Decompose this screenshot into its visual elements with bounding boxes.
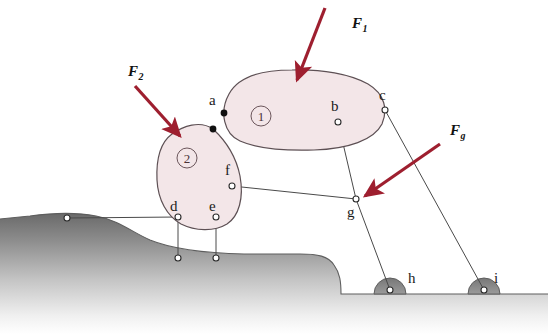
force-label-F1: F1 bbox=[351, 15, 368, 34]
node-marker-f bbox=[229, 183, 235, 189]
force-subscript-F1: 1 bbox=[363, 23, 368, 34]
node-marker-ground-d bbox=[175, 255, 181, 261]
node-marker-a2 bbox=[210, 126, 217, 133]
node-marker-i bbox=[481, 287, 487, 293]
ground-terrain bbox=[0, 213, 548, 334]
node-label-d: d bbox=[170, 198, 178, 214]
diagram-canvas: 12 abcdefghi F1F2Fg bbox=[0, 0, 548, 334]
body-number-2: 2 bbox=[184, 151, 191, 166]
node-label-i: i bbox=[494, 270, 498, 286]
node-marker-d bbox=[175, 214, 181, 220]
node-marker-ground-e bbox=[213, 255, 219, 261]
node-label-a: a bbox=[209, 92, 216, 108]
force-subscript-F2: 2 bbox=[138, 71, 144, 82]
node-marker-b bbox=[335, 119, 341, 125]
node-marker-g bbox=[353, 196, 359, 202]
force-arrow-Fg bbox=[365, 144, 440, 196]
force-label-Fg: Fg bbox=[449, 122, 466, 141]
terrain-group bbox=[0, 213, 548, 334]
node-label-e: e bbox=[209, 198, 216, 214]
node-label-c: c bbox=[379, 87, 386, 103]
link-g-h bbox=[356, 199, 390, 290]
node-marker-anchor-left bbox=[64, 215, 70, 221]
free-body-diagram: 12 abcdefghi F1F2Fg bbox=[0, 0, 548, 334]
link-f-g bbox=[232, 186, 356, 199]
force-arrow-F1 bbox=[297, 8, 325, 80]
node-marker-a bbox=[221, 110, 228, 117]
node-marker-h bbox=[387, 287, 393, 293]
node-label-b: b bbox=[331, 98, 339, 114]
link-c-i bbox=[385, 110, 484, 290]
force-label-F2: F2 bbox=[127, 63, 144, 82]
node-label-h: h bbox=[408, 270, 416, 286]
node-label-g: g bbox=[347, 204, 355, 220]
body-1-outline bbox=[224, 70, 385, 150]
force-subscript-Fg: g bbox=[460, 130, 466, 141]
body-number-1: 1 bbox=[258, 109, 265, 124]
node-label-f: f bbox=[225, 162, 230, 178]
node-marker-e bbox=[213, 214, 219, 220]
node-marker-c bbox=[382, 107, 388, 113]
force-arrow-F2 bbox=[135, 86, 180, 136]
